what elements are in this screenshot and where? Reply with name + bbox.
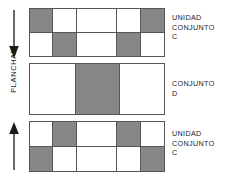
block-column [30,9,53,56]
block-cell-gray [76,64,119,114]
block-cell-gray [141,147,164,172]
block-column [53,122,77,171]
block-cell-white [77,9,115,33]
label-line: C [172,148,230,158]
label-line: CONJUNTO [172,79,230,89]
block-cell-white [117,147,140,172]
block-cell-gray [141,9,164,33]
label-line: D [172,89,230,99]
block-column [141,122,164,171]
block-cell-white [77,147,115,172]
block-cell-white [53,147,76,172]
block-cell-gray [30,147,52,172]
ironing-sequence-diagram: PLANCHAR UNIDADCONJUNTOC CONJUNTOD UNIDA… [0,0,232,181]
planchar-axis-label: PLANCHAR [8,36,20,104]
block-cell-gray [53,33,76,57]
block-cell-white [141,122,164,147]
block-column [117,122,141,171]
block-column [77,9,116,56]
block-column [30,64,76,114]
block-column [117,9,141,56]
label-line: CONJUNTO [172,139,230,149]
block-column [76,64,120,114]
block-row-1 [29,8,165,57]
block-1-label: UNIDADCONJUNTOC [172,13,230,42]
block-cell-gray [53,122,76,147]
block-cell-gray [117,33,140,57]
block-row-2 [29,63,165,115]
planchar-axis: PLANCHAR [2,6,28,174]
label-line: CONJUNTO [172,23,230,33]
block-cell-white [30,33,52,57]
block-cell-white [77,33,115,57]
label-line: UNIDAD [172,129,230,139]
block-cell-white [141,33,164,57]
block-cell-white [30,64,75,114]
label-line: UNIDAD [172,13,230,23]
block-cell-white [53,9,76,33]
block-cell-white [30,122,52,147]
label-line: C [172,32,230,42]
block-column [53,9,77,56]
block-cell-gray [117,122,140,147]
block-cell-gray [30,9,52,33]
block-row-3 [29,121,165,172]
block-cell-white [77,122,115,147]
block-2-label: CONJUNTOD [172,79,230,98]
block-cell-white [117,9,140,33]
block-column [141,9,164,56]
arrow-up-icon [6,120,22,172]
block-3-label: UNIDADCONJUNTOC [172,129,230,158]
block-column [77,122,116,171]
block-cell-white [120,64,164,114]
block-column [30,122,53,171]
block-column [120,64,164,114]
